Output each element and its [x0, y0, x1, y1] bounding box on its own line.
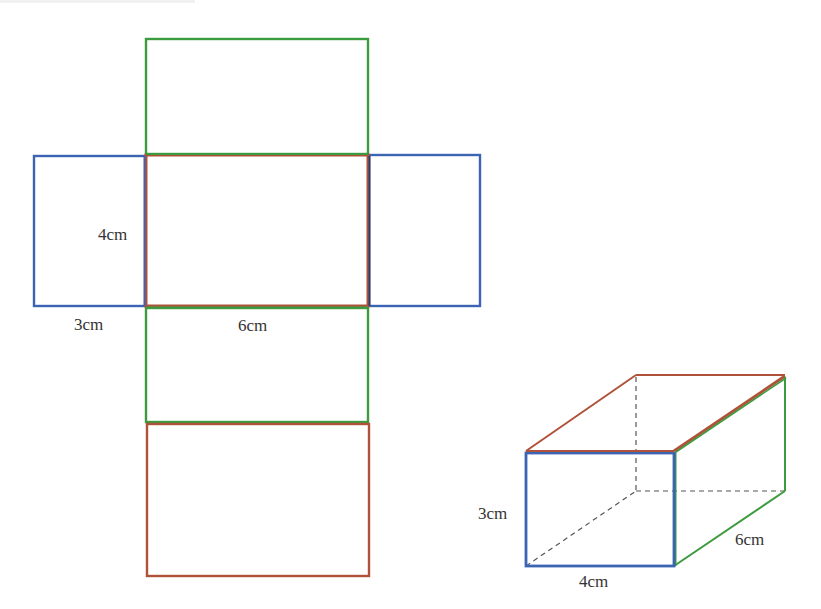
top-left-edge: [526, 375, 636, 451]
net-right-face: [369, 155, 480, 306]
top-right-edge-green: [676, 378, 786, 452]
net: [34, 39, 480, 576]
side-bottom-edge: [674, 491, 785, 566]
cuboid-label-depth: 6cm: [735, 530, 764, 549]
net-bottom-face: [147, 424, 369, 576]
cuboid-label-width: 4cm: [579, 572, 608, 591]
net-top-face: [146, 39, 368, 154]
net-label-height: 4cm: [98, 225, 127, 244]
hidden-edge-depth: [526, 491, 636, 566]
net-center-face: [146, 155, 368, 306]
cuboid-label-height: 3cm: [478, 504, 507, 523]
top-right-edge: [674, 376, 785, 451]
net-label-side-width: 3cm: [74, 315, 103, 334]
front-face: [526, 453, 674, 566]
net-label-length: 6cm: [238, 316, 267, 335]
prism-net-diagram: 4cm 3cm 6cm 3cm 4cm 6cm: [0, 0, 821, 609]
net-left-face: [34, 156, 145, 306]
